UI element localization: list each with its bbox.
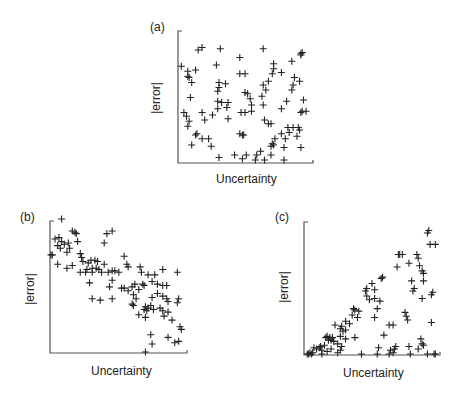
plus-marker bbox=[415, 345, 422, 352]
axes-frame bbox=[304, 222, 440, 355]
plus-marker bbox=[403, 313, 410, 320]
plus-marker bbox=[413, 251, 420, 258]
plus-marker bbox=[408, 277, 415, 284]
plus-marker bbox=[386, 351, 393, 358]
data-points bbox=[304, 227, 439, 357]
plus-marker bbox=[432, 241, 439, 248]
plus-marker bbox=[428, 319, 435, 326]
plus-marker bbox=[351, 334, 358, 341]
plus-marker bbox=[404, 316, 411, 323]
plus-marker bbox=[405, 343, 412, 350]
plus-marker bbox=[402, 309, 409, 316]
plus-marker bbox=[432, 351, 439, 358]
plus-marker bbox=[419, 295, 426, 302]
plus-marker bbox=[379, 274, 386, 281]
plus-marker bbox=[380, 332, 387, 339]
plus-marker bbox=[415, 255, 422, 262]
plus-marker bbox=[378, 275, 385, 282]
plus-marker bbox=[420, 277, 427, 284]
plus-marker bbox=[424, 351, 431, 358]
plus-marker bbox=[407, 351, 414, 358]
plus-marker bbox=[332, 322, 339, 329]
plus-marker bbox=[419, 340, 426, 347]
plus-marker bbox=[374, 305, 381, 312]
plus-marker bbox=[369, 280, 376, 287]
plus-marker bbox=[420, 342, 427, 349]
plus-marker bbox=[390, 322, 397, 329]
plus-marker bbox=[394, 264, 401, 271]
plus-marker bbox=[375, 344, 382, 351]
plus-marker bbox=[358, 351, 365, 358]
scatter-plot-c bbox=[0, 0, 461, 396]
plus-marker bbox=[371, 314, 378, 321]
plus-marker bbox=[405, 260, 412, 267]
plus-marker bbox=[417, 335, 424, 342]
plus-marker bbox=[374, 351, 381, 358]
plus-marker bbox=[371, 286, 378, 293]
